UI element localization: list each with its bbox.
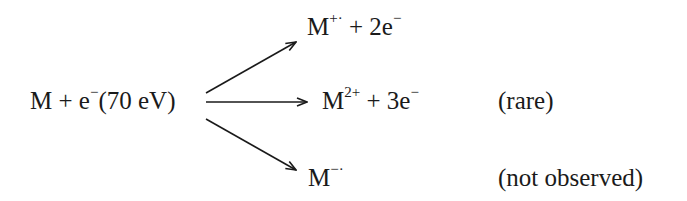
product-charge: +· <box>329 10 342 26</box>
arrow-down-icon <box>206 119 296 170</box>
product-species: M2+ <box>322 87 360 114</box>
product-plus: + <box>349 13 363 40</box>
electron-charge: − <box>410 84 418 100</box>
product-radical-cation: M+· + 2e− <box>307 14 401 39</box>
product-species: M−· <box>308 164 344 191</box>
electron-charge: − <box>393 10 401 26</box>
note-rare: (rare) <box>498 88 554 113</box>
product-species: M+· <box>307 13 343 40</box>
product-radical-anion: M−· <box>308 165 344 190</box>
product-plus: + <box>366 87 380 114</box>
product-electrons: 2e− <box>369 13 401 40</box>
note-not-observed: (not observed) <box>498 165 643 190</box>
arrow-up-icon <box>206 42 296 93</box>
product-charge: 2+ <box>344 84 360 100</box>
product-dication: M2+ + 3e− <box>322 88 419 113</box>
product-electrons: 3e− <box>387 87 419 114</box>
product-charge: −· <box>330 161 343 177</box>
